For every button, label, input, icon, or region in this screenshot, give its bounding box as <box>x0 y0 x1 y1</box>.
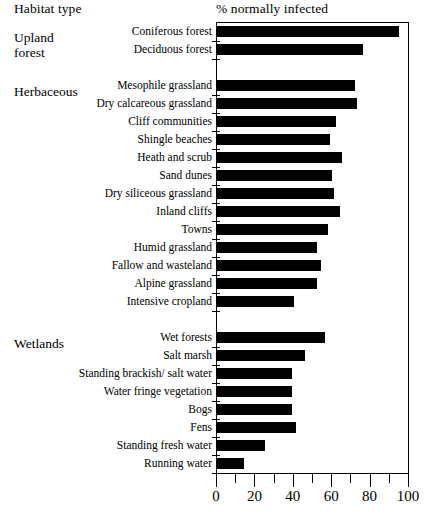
bar <box>217 242 317 253</box>
bar <box>217 26 399 37</box>
bar <box>217 224 328 235</box>
bar-row <box>216 78 408 96</box>
bar <box>217 260 321 271</box>
bar-row <box>216 420 408 438</box>
category-label: Towns <box>0 223 212 235</box>
bar <box>217 368 292 379</box>
category-label: Fallow and wasteland <box>0 259 212 271</box>
bar-row <box>216 402 408 420</box>
bar <box>217 422 296 433</box>
bar-row <box>216 186 408 204</box>
category-label: Dry siliceous grassland <box>0 187 212 199</box>
x-axis-tick-minor <box>350 474 351 483</box>
bar-row <box>216 366 408 384</box>
category-label: Cliff communities <box>0 115 212 127</box>
category-label: Shingle beaches <box>0 133 212 145</box>
category-label: Deciduous forest <box>0 43 212 55</box>
bar-row <box>216 96 408 114</box>
bar-row <box>216 150 408 168</box>
x-axis-tick-minor <box>274 474 275 483</box>
x-axis-tick-major <box>408 474 409 487</box>
bar <box>217 206 340 217</box>
x-axis-tick-minor <box>312 474 313 483</box>
category-label: Coniferous forest <box>0 25 212 37</box>
bar-row <box>216 114 408 132</box>
bar <box>217 98 357 109</box>
category-label: Alpine grassland <box>0 277 212 289</box>
percent-infected-header: % normally infected <box>216 1 328 17</box>
bar <box>217 440 265 451</box>
y-axis-tick <box>212 59 220 60</box>
x-axis-tick-label: 80 <box>350 488 390 505</box>
bar <box>217 404 292 415</box>
category-label: Heath and scrub <box>0 151 212 163</box>
bar <box>217 170 332 181</box>
bar <box>217 188 334 199</box>
x-axis-tick-label: 20 <box>234 488 274 505</box>
bar-row <box>216 384 408 402</box>
x-axis-tick-major <box>293 474 294 487</box>
bar-row <box>216 168 408 186</box>
category-label: Intensive cropland <box>0 295 212 307</box>
bar <box>217 458 244 469</box>
x-axis-tick-label: 60 <box>311 488 351 505</box>
bar-row <box>216 42 408 60</box>
x-axis-tick-major <box>331 474 332 487</box>
bar-row <box>216 258 408 276</box>
category-label: Running water <box>0 457 212 469</box>
bar-row <box>216 276 408 294</box>
bar <box>217 278 317 289</box>
bar-chart: Habitat type % normally infected Upland … <box>0 0 429 519</box>
bar-row <box>216 24 408 42</box>
bar <box>217 134 330 145</box>
bar <box>217 296 294 307</box>
x-axis-tick-major <box>216 474 217 487</box>
bar <box>217 386 292 397</box>
category-label: Mesophile grassland <box>0 79 212 91</box>
y-axis-tick <box>212 311 220 312</box>
plot-frame-right <box>408 22 409 474</box>
x-axis-tick-minor <box>235 474 236 483</box>
category-label: Bogs <box>0 403 212 415</box>
category-label: Standing fresh water <box>0 439 212 451</box>
habitat-type-header: Habitat type <box>14 1 82 17</box>
bar-row <box>216 438 408 456</box>
category-label: Water fringe vegetation <box>0 385 212 397</box>
bar-row <box>216 132 408 150</box>
category-label: Wet forests <box>0 331 212 343</box>
bar-row <box>216 348 408 366</box>
bar-row <box>216 294 408 312</box>
bar <box>217 116 336 127</box>
bar-row <box>216 456 408 474</box>
bar-row <box>216 330 408 348</box>
x-axis-tick-major <box>370 474 371 487</box>
category-label: Dry calcareous grassland <box>0 97 212 109</box>
x-axis-tick-label: 0 <box>196 488 236 505</box>
plot-frame-top <box>216 22 409 23</box>
x-axis-tick-label: 100 <box>388 488 428 505</box>
bar-row <box>216 240 408 258</box>
bar <box>217 80 355 91</box>
category-label: Inland cliffs <box>0 205 212 217</box>
bar <box>217 152 342 163</box>
bar <box>217 350 305 361</box>
category-label: Standing brackish/ salt water <box>0 367 212 379</box>
bar <box>217 44 363 55</box>
category-label: Sand dunes <box>0 169 212 181</box>
plot-area <box>216 22 409 474</box>
x-axis-tick-label: 40 <box>273 488 313 505</box>
category-label: Humid grassland <box>0 241 212 253</box>
x-axis-tick-major <box>254 474 255 487</box>
category-label: Salt marsh <box>0 349 212 361</box>
bar-row <box>216 222 408 240</box>
bar-row <box>216 204 408 222</box>
x-axis-tick-minor <box>389 474 390 483</box>
bar <box>217 332 325 343</box>
category-label: Fens <box>0 421 212 433</box>
